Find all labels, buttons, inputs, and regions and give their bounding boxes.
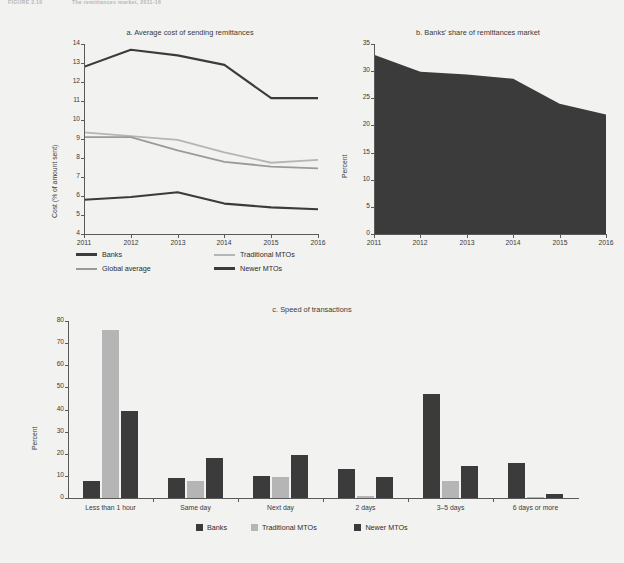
panel-b-x-tick bbox=[374, 235, 375, 238]
panel-a-x-tick bbox=[178, 235, 179, 238]
figure-number: FIGURE 2.10 bbox=[8, 0, 42, 5]
panel-a-legend-item: Traditional MTOs bbox=[214, 250, 295, 259]
panel-c-x-axis bbox=[68, 498, 579, 499]
panel-c-y-axis bbox=[68, 321, 69, 499]
panel-a-legend-label: Banks bbox=[102, 250, 122, 259]
panel-b-y-tick-label: 0 bbox=[350, 230, 370, 237]
panel-a-x-tick-label: 2013 bbox=[160, 240, 196, 247]
panel-a-y-tick-label: 12 bbox=[60, 78, 80, 85]
panel-c-legend-item: Newer MTOs bbox=[354, 523, 407, 532]
panel-c-bar bbox=[272, 477, 289, 498]
panel-c-y-tick-label: 70 bbox=[44, 339, 64, 346]
panel-c-bar bbox=[121, 411, 138, 498]
panel-c-legend-label: Newer MTOs bbox=[365, 523, 407, 532]
panel-c-x-tick-label: Next day bbox=[236, 505, 326, 512]
panel-c-y-tick-label: 50 bbox=[44, 383, 64, 390]
panel-a-legend-label: Global average bbox=[102, 264, 151, 273]
panel-c-bar bbox=[423, 394, 440, 498]
panel-b-y-axis-title: Percent bbox=[342, 155, 349, 178]
panel-b-x-tick-label: 2013 bbox=[449, 240, 485, 247]
panel-b-y-axis bbox=[374, 44, 375, 235]
panel-c-legend-item: Traditional MTOs bbox=[251, 523, 317, 532]
panel-c-plot-area bbox=[68, 321, 578, 498]
panel-b-x-tick-label: 2014 bbox=[495, 240, 531, 247]
panel-b-y-tick-label: 15 bbox=[350, 149, 370, 156]
panel-b-title: b. Banks' share of remittances market bbox=[338, 28, 618, 37]
panel-b-x-tick-label: 2011 bbox=[356, 240, 392, 247]
panel-a-y-axis-title: Cost (% of amount sent) bbox=[52, 145, 59, 218]
panel-c-x-tick-label: Same day bbox=[151, 505, 241, 512]
panel-c-legend-label: Banks bbox=[207, 523, 227, 532]
panel-a-y-tick-label: 7 bbox=[60, 173, 80, 180]
panel-c-x-tick-label: 3–5 days bbox=[406, 505, 496, 512]
panel-a-plot-area bbox=[84, 44, 318, 234]
panel-c-x-tick-label: 2 days bbox=[321, 505, 411, 512]
panel-a-legend: BanksTraditional MTOsGlobal averageNewer… bbox=[76, 250, 330, 280]
panel-c-category-separator bbox=[323, 499, 324, 502]
legend-color-swatch bbox=[251, 524, 258, 531]
panel-b-y-tick-label: 20 bbox=[350, 121, 370, 128]
panel-c-y-tick-label: 30 bbox=[44, 428, 64, 435]
panel-a-x-tick-label: 2011 bbox=[66, 240, 102, 247]
panel-b-y-tick-label: 35 bbox=[350, 40, 370, 47]
panel-c-x-tick-label: Less than 1 hour bbox=[66, 505, 156, 512]
panel-c-legend-label: Traditional MTOs bbox=[262, 523, 317, 532]
panel-b-x-tick bbox=[467, 235, 468, 238]
panel-c-bar bbox=[83, 481, 100, 498]
panel-a-x-tick bbox=[84, 235, 85, 238]
panel-c-bar bbox=[187, 481, 204, 498]
panel-c-bar bbox=[338, 469, 355, 498]
panel-a-legend-item: Newer MTOs bbox=[214, 264, 282, 273]
panel-a-x-tick bbox=[271, 235, 272, 238]
figure-page: FIGURE 2.10 The remittances market, 2011… bbox=[0, 0, 624, 563]
panel-c-y-tick-label: 40 bbox=[44, 406, 64, 413]
panel-c-x-tick-label: 6 days or more bbox=[491, 505, 581, 512]
panel-b-x-tick bbox=[420, 235, 421, 238]
panel-c-bar bbox=[253, 476, 270, 498]
panel-b-x-tick-label: 2016 bbox=[588, 240, 624, 247]
panel-a-y-tick-label: 13 bbox=[60, 59, 80, 66]
panel-b-y-tick-label: 10 bbox=[350, 176, 370, 183]
panel-c-y-tick-label: 0 bbox=[44, 494, 64, 501]
panel-c-y-axis-title: Percent bbox=[32, 427, 39, 450]
legend-line-swatch bbox=[76, 268, 97, 270]
panel-a-y-axis bbox=[84, 44, 85, 235]
panel-a-legend-item: Global average bbox=[76, 264, 151, 273]
panel-c-bar bbox=[102, 330, 119, 498]
panel-a-x-tick bbox=[131, 235, 132, 238]
panel-a-legend-label: Newer MTOs bbox=[240, 264, 282, 273]
panel-c-bar bbox=[206, 458, 223, 498]
panel-a-x-tick bbox=[318, 235, 319, 238]
panel-b-x-tick bbox=[513, 235, 514, 238]
panel-c-speed-of-transactions: c. Speed of transactions Percent 0102030… bbox=[26, 305, 598, 555]
panel-a-y-tick-label: 6 bbox=[60, 192, 80, 199]
panel-c-category-separator bbox=[238, 499, 239, 502]
panel-c-y-tick-label: 80 bbox=[44, 317, 64, 324]
legend-color-swatch bbox=[196, 524, 203, 531]
figure-caption: The remittances market, 2011-16 bbox=[72, 0, 161, 5]
panel-c-bar bbox=[461, 466, 478, 498]
panel-a-y-tick-label: 9 bbox=[60, 135, 80, 142]
panel-c-y-tick-label: 10 bbox=[44, 472, 64, 479]
panel-c-legend-item: Banks bbox=[196, 523, 227, 532]
panel-a-average-cost: a. Average cost of sending remittances C… bbox=[50, 28, 330, 288]
panel-a-x-axis bbox=[84, 234, 319, 235]
panel-a-x-tick-label: 2012 bbox=[113, 240, 149, 247]
legend-color-swatch bbox=[354, 524, 361, 531]
panel-b-area bbox=[374, 44, 606, 234]
panel-a-x-tick bbox=[224, 235, 225, 238]
panel-c-bar bbox=[508, 463, 525, 498]
panel-a-legend-item: Banks bbox=[76, 250, 122, 259]
panel-c-y-tick-label: 20 bbox=[44, 450, 64, 457]
panel-a-lines bbox=[84, 44, 318, 234]
panel-b-x-axis bbox=[374, 234, 607, 235]
panel-c-category-separator bbox=[408, 499, 409, 502]
panel-c-title: c. Speed of transactions bbox=[26, 305, 598, 314]
panel-b-y-tick-label: 5 bbox=[350, 203, 370, 210]
panel-b-y-tick-label: 30 bbox=[350, 67, 370, 74]
panel-b-plot-area bbox=[374, 44, 606, 234]
panel-b-banks-share: b. Banks' share of remittances market Pe… bbox=[338, 28, 618, 243]
panel-a-y-tick-label: 11 bbox=[60, 97, 80, 104]
panel-c-bar bbox=[168, 478, 185, 498]
panel-c-category-separator bbox=[493, 499, 494, 502]
